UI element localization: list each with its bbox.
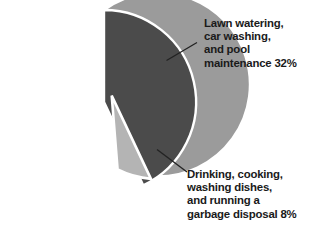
slice-label-bathing: Bathing, toilet flushing, and laundry 60… xyxy=(29,87,113,127)
slice-label-lawn: Lawn watering, car washing, and pool mai… xyxy=(204,17,328,70)
slice-label-drinking: Drinking, cooking, washing dishes, and r… xyxy=(187,168,328,221)
